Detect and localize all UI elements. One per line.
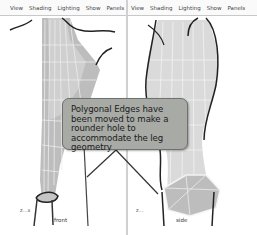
annotation-callout: Polygonal Edges have been moved to make … — [62, 98, 188, 150]
menu-panels[interactable]: Panels — [227, 5, 245, 11]
side-viewport-menubar: View Shading Lighting Show Panels — [128, 0, 257, 16]
axis-indicator: z…x — [20, 207, 31, 213]
front-viewport-menubar: View Shading Lighting Show Panels — [0, 0, 126, 16]
outline-leg-back — [52, 200, 53, 225]
callout-text: Polygonal Edges have been moved to make … — [71, 105, 183, 153]
outline-leg-front — [34, 200, 37, 226]
menu-lighting[interactable]: Lighting — [178, 5, 200, 11]
menu-view[interactable]: View — [131, 5, 144, 11]
outline-leg-left — [162, 192, 164, 226]
menu-show[interactable]: Show — [207, 5, 222, 11]
outline-arm-left — [10, 20, 32, 30]
menu-panels[interactable]: Panels — [106, 5, 124, 11]
outline-leg-hole — [36, 192, 58, 202]
outline-leg-right — [84, 145, 88, 226]
outline-hip-left — [160, 150, 162, 190]
menu-show[interactable]: Show — [86, 5, 101, 11]
menu-view[interactable]: View — [10, 5, 23, 11]
menu-shading[interactable]: Shading — [150, 5, 172, 11]
view-label-front: front — [54, 217, 67, 223]
outline-side — [96, 48, 112, 65]
view-label-side: side — [176, 217, 187, 223]
axis-indicator: z… — [136, 207, 144, 213]
menu-lighting[interactable]: Lighting — [57, 5, 79, 11]
menu-shading[interactable]: Shading — [29, 5, 51, 11]
